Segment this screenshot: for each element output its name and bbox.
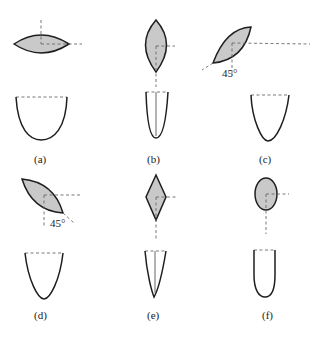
profile-e-narrow-v — [145, 251, 166, 297]
panel-e: (e) — [145, 175, 178, 322]
section-b-vertical-lens — [146, 20, 176, 87]
panel-label-d: (d) — [34, 309, 47, 322]
panel-label-e: (e) — [147, 309, 160, 322]
panel-label-f: (f) — [262, 309, 273, 322]
section-f-ellipse — [255, 178, 289, 234]
panel-label-b: (b) — [147, 153, 160, 166]
panel-f: (f) — [254, 178, 289, 322]
diagram-canvas: (a) (b) 45° (c) — [0, 0, 312, 337]
profile-c-v-u — [251, 95, 289, 141]
panel-d: 45° (d) — [22, 179, 82, 322]
panel-label-c: (c) — [259, 153, 272, 166]
panel-c: 45° (c) — [202, 27, 310, 166]
panel-a: (a) — [14, 20, 82, 166]
angle-label-c: 45° — [222, 67, 237, 79]
profile-b-narrow-u — [146, 92, 168, 138]
section-e-diamond — [146, 175, 178, 240]
profile-f-narrow-u — [254, 250, 275, 297]
panel-label-a: (a) — [34, 153, 47, 166]
profile-d-v-u — [25, 253, 63, 299]
profile-a-wide-u — [16, 97, 67, 140]
section-a-horizontal-lens — [14, 20, 82, 53]
angle-label-d: 45° — [50, 217, 65, 229]
panel-b: (b) — [146, 20, 176, 166]
section-c-lens-45deg — [202, 27, 310, 74]
